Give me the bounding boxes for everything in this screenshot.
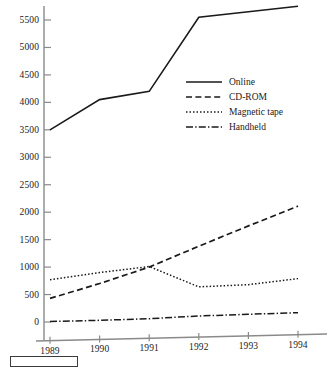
y-axis-tick-label: 500 [0, 290, 39, 300]
legend-item-online: Online [186, 75, 316, 89]
x-axis-tick-label: 1991 [139, 343, 158, 353]
y-axis-tick-label: 4000 [0, 97, 39, 107]
x-axis-tick-label: 1994 [288, 340, 307, 350]
y-axis-tick-label: 1500 [0, 235, 39, 245]
x-axis-tick-label: 1989 [40, 346, 59, 356]
legend-line-swatch-icon [186, 122, 222, 132]
y-axis-tick-label: 3000 [0, 152, 39, 162]
axis-layer [36, 6, 327, 344]
legend-line-swatch-icon [186, 77, 222, 87]
x-axis-tick-label: 1992 [189, 342, 208, 352]
legend-item-magnetic-tape: Magnetic tape [186, 105, 316, 119]
series-line-magnetic-tape [50, 267, 298, 287]
series-line-handheld [50, 313, 298, 322]
legend-item-handheld: Handheld [186, 120, 316, 134]
legend-item-cd-rom: CD-ROM [186, 90, 316, 104]
series-line-cd-rom [50, 206, 298, 298]
y-axis-tick-label: 2500 [0, 180, 39, 190]
legend-line-swatch-icon [186, 107, 222, 117]
x-axis-tick-label: 1993 [239, 341, 258, 351]
y-axis-tick-label: 5500 [0, 15, 39, 25]
legend-item-label: Online [229, 77, 255, 87]
line-chart: 0500100015002000250030003500400045005000… [0, 0, 329, 369]
y-axis-tick-label: 3500 [0, 125, 39, 135]
x-axis-line [36, 334, 327, 341]
x-axis-tick-label: 1990 [90, 344, 109, 354]
chart-plot-area [0, 0, 329, 369]
legend-line-swatch-icon [186, 92, 222, 102]
y-axis-tick-label: 0 [0, 317, 39, 327]
bottom-placeholder-box [10, 356, 78, 367]
y-axis-tick-label: 1000 [0, 262, 39, 272]
series-layer [50, 6, 298, 321]
legend-item-label: Handheld [229, 122, 266, 132]
y-axis-tick-label: 5000 [0, 42, 39, 52]
y-axis-tick-label: 2000 [0, 207, 39, 217]
legend-item-label: Magnetic tape [229, 107, 283, 117]
y-axis-tick-label: 4500 [0, 70, 39, 80]
chart-legend: OnlineCD-ROMMagnetic tapeHandheld [186, 75, 316, 135]
legend-item-label: CD-ROM [229, 92, 267, 102]
